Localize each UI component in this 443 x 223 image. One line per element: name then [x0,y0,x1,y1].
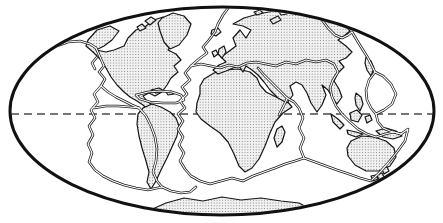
map-canvas [0,0,443,223]
continent-south-america [137,104,179,189]
island-sulawesi [365,115,372,123]
continent-australia [347,136,396,171]
island-madagascar [274,126,285,147]
island-philippines [355,93,363,111]
island-borneo [350,110,362,122]
tectonic-plates-map [0,0,443,223]
island-ireland [212,50,218,57]
island-sumatra [331,114,344,129]
